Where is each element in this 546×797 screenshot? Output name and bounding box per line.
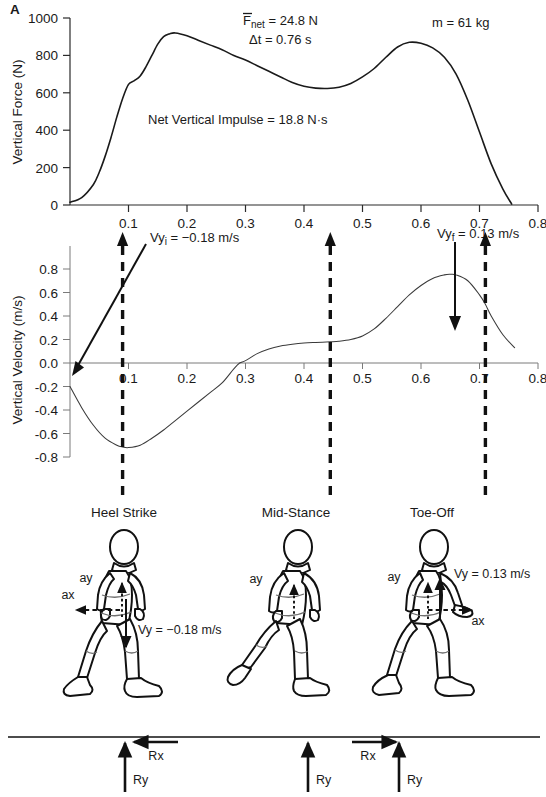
ax-label: ax [61,588,75,602]
ry-label-heel-strike: Ry [133,773,149,787]
fnet-annotation: Fnet = 24.8 N [243,13,318,30]
force-y-ticks: 0 200 400 600 800 1000 [28,11,70,213]
vel-xtick-0.7: 0.7 [470,371,489,386]
vel-ytick-0.2: 0.2 [39,333,58,348]
force-y-axis-label: Vertical Force (N) [10,59,25,164]
hand-near [453,605,472,617]
figure-toe-off: ay Vy = 0.13 m/s ax [373,530,531,696]
phase-label-mid-stance: Mid-Stance [262,505,330,520]
vel-ytick-0.8: 0.8 [39,262,58,277]
vel-ytick--0.4: -0.4 [35,403,59,418]
ay-label: ay [79,571,93,585]
ay-label: ay [387,570,401,584]
figure-mid-stance: ay [228,530,330,696]
ry-label-toe-off: Ry [407,773,423,787]
vel-xtick-0.5: 0.5 [353,371,372,386]
force-ytick-600: 600 [35,86,58,101]
vel-xtick-0.6: 0.6 [412,371,431,386]
foot-far [373,675,402,695]
vel-xtick-0.1: 0.1 [119,371,138,386]
panel-letter: A [10,2,20,17]
vyi-value: = −0.18 m/s [167,230,240,245]
ax-label: ax [471,614,485,628]
vel-ytick-0.6: 0.6 [39,286,58,301]
ry-label-mid-stance: Ry [316,773,332,787]
force-ytick-400: 400 [35,123,58,138]
vel-ytick--0.2: -0.2 [35,380,58,395]
vel-ytick-0.0: 0.0 [39,356,58,371]
leg-far [78,621,107,679]
vel-xtick-0.4: 0.4 [295,371,314,386]
leg-near [287,619,308,681]
delta-t-annotation: Δt = 0.76 s [249,32,312,47]
vy-label: Vy = 0.13 m/s [454,567,530,581]
velocity-y-ticks: -0.8 -0.6 -0.4 -0.2 0.0 0.2 0.4 0.6 0.8 [35,262,70,465]
vel-ytick--0.6: -0.6 [35,427,58,442]
hand-far [273,611,282,622]
vyf-label: Vyf = 0.13 m/s [437,228,520,243]
leg-near [427,619,450,680]
force-ytick-0: 0 [50,198,58,213]
fnet-value: = 24.8 N [265,13,318,28]
gait-phase-diagram: Heel Strike Mid-Stance Toe-Off [0,495,546,797]
vyi-label: Vyi = −0.18 m/s [150,230,240,247]
fnet-subscript: net [251,19,265,30]
foot-far [64,677,93,696]
vel-ytick-0.4: 0.4 [39,309,58,324]
vertical-velocity-chart: -0.8 -0.6 -0.4 -0.2 0.0 0.2 0.4 0.6 0.8 … [0,228,546,493]
vyi-annotation-group: Vyi = −0.18 m/s [72,230,240,376]
foot-near [293,678,329,696]
fnet-symbol: F [243,13,251,28]
vel-ytick--0.8: -0.8 [35,450,58,465]
force-ytick-1000: 1000 [28,11,58,26]
hand-near [310,610,319,621]
vy-label: Vy = −0.18 m/s [138,623,222,637]
velocity-x-ticks: 0.1 0.2 0.3 0.4 0.5 0.6 0.7 0.8 [119,363,546,386]
hand-near [135,609,144,620]
rx-label-toe-off: Rx [360,749,376,763]
figure-heel-strike: ay ax Vy = −0.18 m/s [61,530,221,697]
phase-label-heel-strike: Heel Strike [91,505,157,520]
vyf-value: = 0.13 m/s [454,228,519,241]
head [284,530,312,564]
force-annotations: Fnet = 24.8 N Δt = 0.76 s m = 61 kg Net … [148,13,489,127]
rx-label-heel-strike: Rx [148,749,164,763]
grf-mid-stance: Ry [308,743,332,792]
leg-far [242,621,279,668]
foot-near [124,678,162,697]
mass-annotation: m = 61 kg [432,15,489,30]
head [110,530,138,564]
force-ytick-800: 800 [35,48,58,63]
phase-label-toe-off: Toe-Off [410,505,454,520]
figure-root: A 0 200 400 600 800 1000 [0,0,546,797]
foot-far [228,665,251,685]
vyi-symbol: Vy [150,230,165,245]
vel-xtick-0.2: 0.2 [178,371,197,386]
vyf-annotation-group: Vyf = 0.13 m/s [437,228,520,331]
vyf-arrowhead [449,316,461,331]
head [420,530,448,564]
force-ytick-200: 200 [35,161,58,176]
vyf-symbol: Vy [437,228,452,241]
velocity-y-axis-label: Vertical Velocity (m/s) [10,295,25,424]
vel-xtick-0.3: 0.3 [236,371,255,386]
leg-near [117,619,139,681]
foot-near [435,677,474,696]
velocity-curve [70,274,515,448]
vyi-arrow-line [76,244,146,369]
leg-far [387,621,417,677]
impulse-annotation: Net Vertical Impulse = 18.8 N·s [148,112,328,127]
grf-heel-strike: Ry Rx [125,742,178,792]
grf-toe-off: Ry Rx [352,742,423,792]
ay-label: ay [249,572,263,586]
vel-xtick-0.8: 0.8 [529,371,546,386]
vertical-force-chart: A 0 200 400 600 800 1000 [0,0,546,232]
